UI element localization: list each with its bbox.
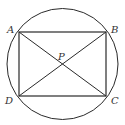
label-d: D bbox=[4, 95, 13, 106]
label-c: C bbox=[111, 95, 119, 106]
geometry-diagram: A B C D P bbox=[0, 0, 125, 125]
diagram-svg: A B C D P bbox=[0, 0, 125, 125]
label-a: A bbox=[6, 24, 14, 35]
label-p: P bbox=[57, 51, 65, 62]
label-b: B bbox=[110, 24, 118, 35]
